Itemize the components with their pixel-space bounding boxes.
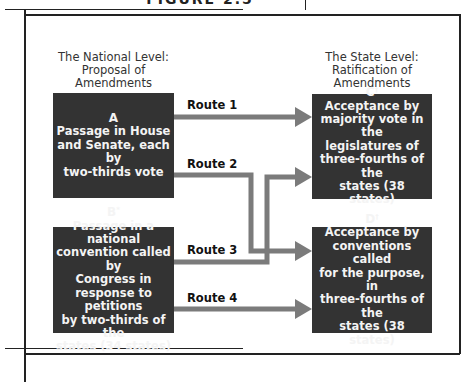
route-2-arrow xyxy=(174,175,298,251)
box-b-line: response to petitions xyxy=(56,287,171,314)
box-d-line: conventions called xyxy=(315,240,429,267)
box-c-letter: C† xyxy=(315,86,429,99)
box-c-mark: † xyxy=(375,86,379,94)
box-c-line: majority vote in the xyxy=(315,113,429,140)
box-d-mark: † xyxy=(375,213,379,221)
box-c-line: three-fourths of the xyxy=(315,153,429,180)
route-3-arrowhead xyxy=(295,167,312,187)
box-c-line: Acceptance by xyxy=(315,100,429,113)
route-2-label: Route 2 xyxy=(187,157,237,171)
box-a-house-senate: A Passage in House and Senate, each by t… xyxy=(53,93,174,198)
box-d-letter-text: D xyxy=(365,212,375,226)
route-1-arrowhead xyxy=(295,107,312,127)
box-b-mark: * xyxy=(116,206,120,214)
route-2-arrowhead xyxy=(295,241,312,261)
box-a-letter: A xyxy=(56,112,171,125)
route-4-arrowhead xyxy=(295,299,312,319)
box-a-letter-text: A xyxy=(109,111,118,125)
box-b-letter-text: B xyxy=(107,205,116,219)
box-b-letter: B* xyxy=(56,206,171,219)
box-d-line: states (38 states) xyxy=(315,320,429,347)
box-c-letter-text: C xyxy=(366,85,375,99)
box-a-line: two-thirds vote xyxy=(56,166,171,179)
box-b-line: by two-thirds of the xyxy=(56,314,171,341)
box-c-line: states (38 states) xyxy=(315,180,429,207)
box-a-line: and Senate, each by xyxy=(56,139,171,166)
box-d-letter: D† xyxy=(315,213,429,226)
route-1-label: Route 1 xyxy=(187,98,237,112)
box-b-line: Congress in xyxy=(56,273,171,286)
route-4-label: Route 4 xyxy=(187,291,237,305)
box-b-line: states (34 states) xyxy=(56,340,171,353)
box-d-line: for the purpose, in xyxy=(315,267,429,294)
box-b-line: Passage in a national xyxy=(56,220,171,247)
box-b-national-convention: B* Passage in a national convention call… xyxy=(53,227,174,333)
box-a-line: Passage in House xyxy=(56,125,171,138)
box-b-line: convention called by xyxy=(56,246,171,273)
box-d-line: three-fourths of the xyxy=(315,293,429,320)
box-d-line: Acceptance by xyxy=(315,226,429,239)
route-3-label: Route 3 xyxy=(187,243,237,257)
box-c-line: legislatures of xyxy=(315,140,429,153)
box-d-state-conventions: D† Acceptance by conventions called for … xyxy=(312,227,432,333)
box-c-state-legislatures: C† Acceptance by majority vote in the le… xyxy=(312,94,432,199)
